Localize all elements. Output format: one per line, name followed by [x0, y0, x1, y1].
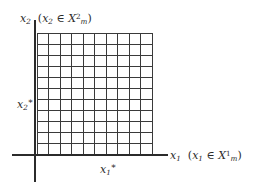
x-tick-label-x1-star: x1∗ — [100, 162, 117, 176]
y-tick-var: x2 — [17, 98, 28, 111]
y-axis-label-var: x2 — [20, 12, 31, 25]
x-axis-label-set: X1m — [218, 149, 237, 162]
x-tick-var: x1 — [100, 163, 111, 176]
star-icon: ∗ — [28, 96, 34, 106]
x-axis-label-member: x1 — [192, 149, 203, 162]
x-axis-label-paren-close: ) — [237, 149, 241, 162]
grid-vertical-lines — [37, 33, 152, 155]
math-figure: x2 (x2 ∈ X2m) x1 (x1 ∈ X1m) x2∗ x1∗ — [0, 0, 268, 188]
x-axis-label-var: x1 — [170, 149, 181, 162]
set-membership-icon: ∈ — [53, 12, 68, 25]
y-axis-label-paren-close: ) — [87, 12, 91, 25]
set-membership-icon: ∈ — [203, 149, 218, 162]
y-tick-label-x2-star: x2∗ — [17, 97, 34, 111]
y-axis-label-member: x2 — [42, 12, 53, 25]
y-axis-label-set: X2m — [68, 12, 87, 25]
y-axis-label-space — [31, 12, 38, 25]
y-axis-label: x2 (x2 ∈ X2m) — [20, 13, 92, 26]
x-axis-label: x1 (x1 ∈ X1m) — [170, 150, 242, 163]
x-axis-label-space — [181, 149, 188, 162]
star-icon: ∗ — [111, 161, 117, 171]
